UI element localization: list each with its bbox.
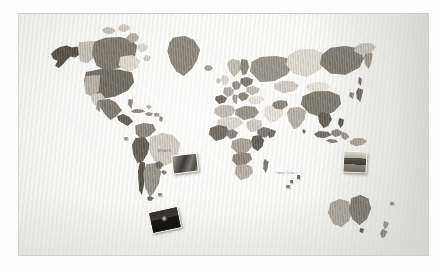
map-piece-korea bbox=[349, 92, 354, 99]
map-piece-balkans bbox=[238, 92, 249, 101]
map-piece-greenland bbox=[166, 36, 200, 76]
map-piece-hudson-region bbox=[118, 55, 140, 72]
map-piece-germany bbox=[232, 81, 241, 90]
photo-border-hairline-top bbox=[19, 13, 429, 14]
map-piece-indochina bbox=[318, 112, 332, 128]
screenshot-root: Canada USA BRAZIL bbox=[0, 0, 441, 271]
map-piece-new-guinea bbox=[349, 138, 367, 146]
map-piece-finland bbox=[240, 59, 249, 75]
map-piece-java bbox=[326, 139, 338, 143]
pinned-photo-southeast-asia-image bbox=[344, 152, 367, 173]
pinned-photo-southeast-asia[interactable] bbox=[342, 150, 368, 174]
wooden-world-map: Canada USA BRAZIL bbox=[18, 13, 429, 256]
map-piece-kazakhstan bbox=[273, 81, 299, 93]
map-piece-borneo bbox=[331, 129, 342, 137]
pinned-photo-patagonia-image bbox=[149, 207, 181, 232]
map-piece-south-africa bbox=[234, 164, 253, 180]
map-piece-turkey bbox=[248, 96, 264, 104]
map-piece-new-zealand-north bbox=[383, 221, 389, 229]
map-piece-fiji bbox=[390, 202, 394, 205]
map-piece-france bbox=[223, 87, 234, 97]
photo-border-right bbox=[429, 0, 441, 271]
map-piece-italy bbox=[232, 94, 239, 104]
map-piece-arctic-island-b bbox=[118, 24, 130, 32]
map-piece-ukraine bbox=[246, 86, 260, 95]
map-piece-spain bbox=[215, 95, 227, 104]
map-piece-tasmania bbox=[359, 228, 365, 233]
photo-border-hairline-bottom bbox=[19, 255, 429, 256]
map-piece-sulawesi bbox=[341, 132, 349, 140]
map-piece-bahamas bbox=[146, 105, 152, 109]
map-piece-alaska bbox=[51, 45, 81, 69]
map-piece-galapagos bbox=[124, 137, 128, 140]
map-piece-reunion bbox=[286, 185, 290, 188]
map-piece-puerto-rico bbox=[154, 113, 159, 116]
map-piece-arctic-island-e bbox=[143, 55, 151, 61]
map-piece-east-africa bbox=[251, 135, 264, 151]
map-piece-florida bbox=[128, 99, 133, 109]
map-piece-arctic-island-a bbox=[102, 27, 116, 34]
map-piece-tierra-del-fuego bbox=[147, 196, 154, 201]
photo-border-top bbox=[0, 0, 441, 14]
pinned-photo-brazil[interactable] bbox=[171, 152, 200, 174]
map-piece-new-zealand-south bbox=[380, 229, 388, 238]
map-piece-west-africa bbox=[209, 125, 229, 141]
photo-border-hairline-left bbox=[18, 13, 19, 256]
map-piece-madagascar bbox=[263, 159, 269, 173]
map-piece-angola-zambia bbox=[232, 152, 252, 166]
map-piece-eastern-australia bbox=[349, 195, 371, 225]
map-piece-uruguay bbox=[161, 170, 167, 175]
map-piece-western-australia bbox=[328, 199, 352, 227]
map-piece-morocco-algeria bbox=[214, 105, 236, 118]
map-piece-lesser-antilles bbox=[159, 116, 163, 122]
map-piece-mauritius bbox=[297, 175, 300, 179]
map-piece-india bbox=[287, 107, 307, 129]
map-piece-peru-bolivia bbox=[132, 137, 150, 163]
map-piece-russia-west bbox=[250, 56, 292, 82]
map-piece-falklands bbox=[158, 193, 162, 196]
map-piece-central-america bbox=[117, 114, 133, 126]
map-piece-japan bbox=[356, 88, 364, 102]
map-piece-philippines bbox=[338, 118, 345, 128]
map-piece-iceland bbox=[204, 65, 213, 71]
map-piece-ireland bbox=[216, 78, 221, 84]
ocean-label-indian-ocean: Indian Ocean bbox=[276, 171, 295, 175]
photo-border-left bbox=[0, 0, 19, 271]
map-piece-sakhalin bbox=[358, 77, 362, 86]
map-piece-poland-belarus bbox=[240, 77, 253, 87]
map-piece-congo bbox=[231, 138, 253, 154]
map-piece-hispaniola bbox=[145, 112, 153, 116]
photo-border-bottom bbox=[0, 256, 441, 271]
map-piece-sri-lanka bbox=[302, 129, 306, 134]
pinned-photo-patagonia[interactable] bbox=[148, 206, 182, 234]
map-piece-cuba bbox=[131, 109, 145, 113]
map-piece-russia-central bbox=[286, 49, 326, 77]
map-piece-indonesia-sumatra bbox=[314, 131, 332, 138]
pinned-photo-brazil-image bbox=[172, 154, 198, 174]
map-piece-yukon bbox=[78, 41, 94, 63]
map-piece-maldives bbox=[290, 180, 293, 183]
map-piece-arctic-island-d bbox=[137, 43, 148, 52]
map-piece-uk bbox=[221, 75, 229, 85]
